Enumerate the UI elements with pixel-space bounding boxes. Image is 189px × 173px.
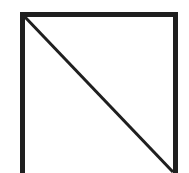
square-with-diagonal-drawing <box>0 0 189 173</box>
figure-canvas <box>0 0 189 173</box>
canvas-background <box>0 0 189 173</box>
